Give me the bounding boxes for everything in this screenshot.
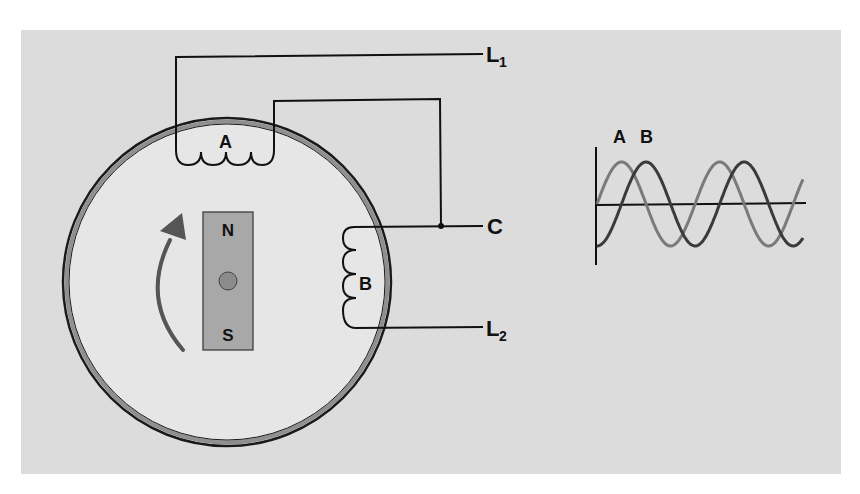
- magnet-south-label: S: [222, 326, 233, 345]
- wave-a-label: A: [613, 127, 626, 147]
- rotor-pivot: [219, 272, 237, 290]
- wire-c: [354, 226, 483, 227]
- svg-text:1: 1: [499, 54, 507, 70]
- junction-node: [438, 223, 444, 229]
- wire-l2: [356, 327, 483, 328]
- coil-a-label: A: [219, 132, 232, 152]
- svg-text:L: L: [486, 42, 499, 67]
- terminal-c: C: [487, 214, 503, 239]
- wave-b-label: B: [640, 127, 653, 147]
- svg-text:L: L: [486, 316, 499, 341]
- svg-text:2: 2: [499, 328, 507, 344]
- magnet-north-label: N: [222, 221, 234, 240]
- svg-text:C: C: [487, 214, 503, 239]
- diagram-canvas: A B L 1 C L 2 N S A B: [0, 0, 860, 494]
- rotor-magnet: N S: [203, 212, 253, 350]
- coil-b-label: B: [359, 274, 372, 294]
